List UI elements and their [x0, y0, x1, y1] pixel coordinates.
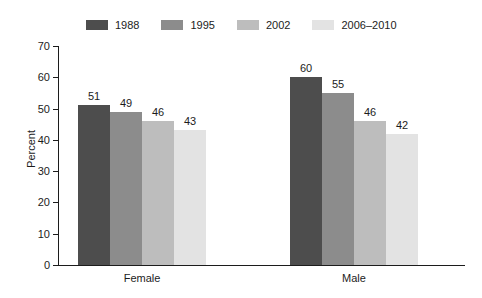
plot-area: 010203040506070 5149464360554642 FemaleM…: [58, 46, 465, 265]
bar-value-label: 42: [396, 119, 408, 131]
y-axis-tick-label: 70: [38, 40, 50, 52]
bar-value-label: 60: [300, 62, 312, 74]
y-axis-tick-mark: [53, 46, 58, 47]
bar: 60: [290, 77, 322, 265]
bar-value-label: 55: [332, 78, 344, 90]
x-axis-category-label: Male: [342, 272, 366, 284]
y-axis-tick-mark: [53, 202, 58, 203]
y-axis-tick-label: 10: [38, 228, 50, 240]
bar-value-label: 46: [152, 106, 164, 118]
y-axis-tick-label: 50: [38, 103, 50, 115]
legend-swatch-icon: [161, 20, 183, 30]
bar-chart: 1988 1995 2002 2006–2010 Percent 0102030…: [0, 0, 482, 298]
bar-value-label: 51: [88, 90, 100, 102]
bar-value-label: 43: [184, 115, 196, 127]
chart-legend: 1988 1995 2002 2006–2010: [86, 17, 397, 33]
legend-swatch-icon: [237, 20, 259, 30]
bar: 49: [110, 112, 142, 265]
bar: 43: [174, 130, 206, 265]
y-axis-line: [58, 46, 59, 265]
legend-item-1988: 1988: [86, 20, 139, 31]
y-axis-tick-mark: [53, 265, 58, 266]
bar-value-label: 49: [120, 97, 132, 109]
y-axis-tick-mark: [53, 234, 58, 235]
bar-value-label: 46: [364, 106, 376, 118]
legend-label: 2002: [266, 20, 290, 31]
y-axis-tick-label: 0: [44, 259, 50, 271]
legend-swatch-icon: [86, 20, 108, 30]
bar: 51: [78, 105, 110, 265]
y-axis-tick-label: 30: [38, 165, 50, 177]
y-axis-tick-mark: [53, 77, 58, 78]
bar: 46: [354, 121, 386, 265]
legend-label: 2006–2010: [341, 20, 396, 31]
bar: 55: [322, 93, 354, 265]
y-axis-tick-label: 60: [38, 71, 50, 83]
legend-label: 1995: [190, 20, 214, 31]
legend-item-2002: 2002: [237, 20, 290, 31]
legend-swatch-icon: [312, 20, 334, 30]
x-axis-category-label: Female: [124, 272, 161, 284]
legend-label: 1988: [115, 20, 139, 31]
y-axis-tick-label: 40: [38, 134, 50, 146]
y-axis-tick-mark: [53, 140, 58, 141]
y-axis-title: Percent: [25, 130, 37, 168]
legend-item-2006-2010: 2006–2010: [312, 20, 396, 31]
y-axis-tick-label: 20: [38, 196, 50, 208]
bar: 46: [142, 121, 174, 265]
y-axis-tick-mark: [53, 109, 58, 110]
bar: 42: [386, 134, 418, 265]
x-axis-line: [58, 265, 465, 266]
legend-item-1995: 1995: [161, 20, 214, 31]
y-axis-tick-mark: [53, 171, 58, 172]
